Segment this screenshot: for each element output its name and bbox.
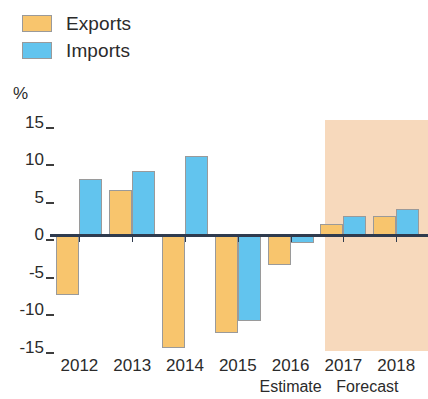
y-tick-label: -15 (0, 338, 44, 358)
y-tick-label: 15 (0, 113, 44, 133)
bar-imports-2013 (132, 171, 155, 235)
x-axis-label-2017: 2017 (324, 356, 362, 376)
x-tick-mark (343, 237, 344, 242)
x-axis-label-2016: 2016 (272, 356, 310, 376)
x-tick-mark (396, 237, 397, 242)
x-axis-label-2013: 2013 (113, 356, 151, 376)
x-axis-annotation-forecast: Forecast (336, 378, 398, 396)
x-tick-mark (185, 237, 186, 242)
x-axis-annotation-estimate: Estimate (259, 378, 321, 396)
bar-imports-2018 (396, 209, 419, 235)
y-tick-mark (46, 352, 54, 354)
x-tick-mark (238, 237, 239, 242)
bar-chart-plot: 151050-5-10-15 2012201320142015201620172… (0, 0, 428, 399)
y-tick-mark (46, 314, 54, 316)
y-tick-label: 10 (0, 150, 44, 170)
x-axis-label-2018: 2018 (377, 356, 415, 376)
y-tick-label: -10 (0, 300, 44, 320)
bar-imports-2014 (185, 156, 208, 235)
y-tick-label: -5 (0, 263, 44, 283)
x-tick-mark (291, 237, 292, 242)
bar-exports-2013 (109, 190, 132, 235)
bar-imports-2015 (238, 235, 261, 321)
bar-imports-2017 (343, 216, 366, 235)
bar-exports-2012 (56, 235, 79, 295)
bar-exports-2016 (268, 235, 291, 265)
x-axis-label-2015: 2015 (219, 356, 257, 376)
zero-baseline-axis (50, 234, 428, 237)
y-tick-mark (46, 202, 54, 204)
x-tick-mark (79, 237, 80, 242)
y-tick-label: 0 (0, 225, 44, 245)
bar-exports-2018 (373, 216, 396, 235)
bar-exports-2015 (215, 235, 238, 333)
y-tick-mark (46, 127, 54, 129)
y-tick-mark (46, 239, 54, 241)
y-tick-label: 5 (0, 188, 44, 208)
bar-exports-2014 (162, 235, 185, 348)
bar-imports-2012 (79, 179, 102, 235)
x-tick-mark (132, 237, 133, 242)
x-axis-label-2012: 2012 (60, 356, 98, 376)
x-axis-label-2014: 2014 (166, 356, 204, 376)
y-tick-mark (46, 277, 54, 279)
y-tick-mark (46, 164, 54, 166)
